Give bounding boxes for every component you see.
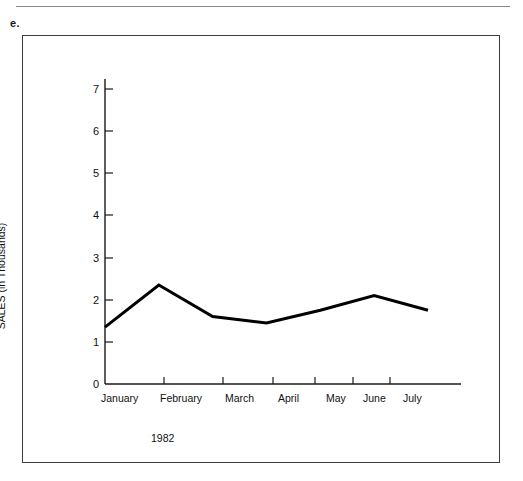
y-tick-label-1: 1	[77, 337, 99, 348]
y-tick-label-5: 5	[77, 168, 99, 179]
x-tick-label-may: May	[326, 393, 346, 404]
y-tick-label-4: 4	[77, 210, 99, 221]
x-tick-label-july: July	[403, 393, 422, 404]
data-series-line	[105, 285, 428, 327]
x-axis-ticks	[164, 377, 390, 384]
chart-canvas	[23, 36, 501, 464]
x-tick-label-february: February	[160, 393, 202, 404]
y-axis-ticks	[105, 89, 113, 342]
item-letter-label: e.	[10, 17, 20, 29]
x-tick-label-march: March	[225, 393, 254, 404]
x-tick-label-april: April	[278, 393, 299, 404]
y-tick-label-0: 0	[77, 379, 99, 390]
y-tick-label-6: 6	[77, 126, 99, 137]
top-divider-rule	[16, 6, 510, 7]
x-axis-title: 1982	[151, 432, 174, 444]
x-tick-label-june: June	[363, 393, 386, 404]
figure-frame: SALES (in Thousands) 7 6 5 4 3 2 1 0 Jan…	[22, 35, 500, 463]
x-tick-label-january: January	[101, 393, 138, 404]
y-axis-title: SALES (in Thousands)	[0, 186, 7, 366]
line-chart: SALES (in Thousands) 7 6 5 4 3 2 1 0 Jan…	[23, 36, 501, 464]
y-tick-label-3: 3	[77, 253, 99, 264]
y-tick-label-2: 2	[77, 295, 99, 306]
y-tick-label-7: 7	[77, 84, 99, 95]
